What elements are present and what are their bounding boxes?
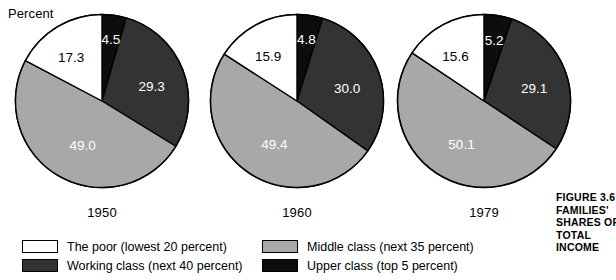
pie-chart-1950: 4.529.349.017.3 1950 [13, 12, 191, 190]
legend-column-left: The poor (lowest 20 percent) Working cla… [22, 237, 243, 275]
slice-value-1960-1: 30.0 [334, 81, 360, 96]
pie-chart-1979: 5.229.150.115.6 1979 [395, 12, 573, 190]
slice-value-1979-0: 5.2 [485, 33, 504, 48]
legend-label-the-poor: The poor (lowest 20 percent) [67, 240, 227, 254]
legend-item-the-poor: The poor (lowest 20 percent) [22, 237, 243, 256]
slice-value-1950-0: 4.5 [101, 32, 120, 47]
pie-svg-1950: 4.529.349.017.3 [13, 12, 191, 190]
year-label-1979: 1979 [395, 205, 573, 220]
legend-swatch-upper-class [262, 259, 298, 272]
slice-value-1979-3: 15.6 [442, 49, 468, 64]
pie-chart-1960: 4.830.049.415.9 1960 [208, 12, 386, 190]
slice-value-1950-2: 49.0 [69, 138, 95, 153]
legend-item-middle-class: Middle class (next 35 percent) [262, 237, 474, 256]
year-label-1950: 1950 [13, 205, 191, 220]
caption-line-4: TOTAL [556, 229, 616, 242]
caption-line-1: FIGURE 3.6 [556, 191, 616, 204]
legend-swatch-working-class [22, 259, 58, 272]
legend-label-upper-class: Upper class (top 5 percent) [307, 259, 458, 273]
pie-svg-1960: 4.830.049.415.9 [208, 12, 386, 190]
pie-svg-1979: 5.229.150.115.6 [395, 12, 573, 190]
legend-item-upper-class: Upper class (top 5 percent) [262, 256, 474, 275]
slice-value-1960-3: 15.9 [255, 49, 281, 64]
slice-value-1960-2: 49.4 [261, 137, 288, 152]
slice-value-1950-3: 17.3 [58, 50, 84, 65]
legend-swatch-the-poor [22, 240, 58, 253]
slice-value-1979-2: 50.1 [448, 137, 474, 152]
legend-label-working-class: Working class (next 40 percent) [67, 259, 243, 273]
caption-line-3: SHARES OF [556, 216, 616, 229]
legend: The poor (lowest 20 percent) Working cla… [0, 237, 616, 277]
figure-caption: FIGURE 3.6 FAMILIES' SHARES OF TOTAL INC… [556, 191, 616, 254]
slice-value-1979-1: 29.1 [521, 81, 547, 96]
legend-label-middle-class: Middle class (next 35 percent) [307, 240, 474, 254]
legend-column-right: Middle class (next 35 percent) Upper cla… [262, 237, 474, 275]
year-label-1960: 1960 [208, 205, 386, 220]
figure-container: Percent 4.529.349.017.3 1950 4.830.049.4… [0, 0, 616, 280]
slice-value-1960-0: 4.8 [297, 32, 316, 47]
legend-swatch-middle-class [262, 240, 298, 253]
slice-value-1950-1: 29.3 [138, 79, 164, 94]
caption-line-5: INCOME [556, 241, 616, 254]
caption-line-2: FAMILIES' [556, 204, 616, 217]
legend-item-working-class: Working class (next 40 percent) [22, 256, 243, 275]
